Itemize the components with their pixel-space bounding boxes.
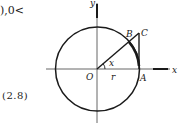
origin-label: O — [86, 72, 94, 82]
unit-circle-diagram: y x O A B C x r — [0, 0, 187, 131]
point-B-label: B — [125, 29, 133, 39]
point-A-label: A — [139, 73, 147, 83]
radius-label: r — [111, 72, 116, 82]
arc-AB — [129, 42, 139, 66]
segment-OC — [97, 33, 139, 69]
y-axis-label: y — [89, 0, 96, 8]
angle-arc — [103, 64, 105, 69]
angle-label: x — [109, 58, 114, 68]
point-C-label: C — [141, 28, 148, 38]
x-axis-label: x — [172, 65, 177, 75]
